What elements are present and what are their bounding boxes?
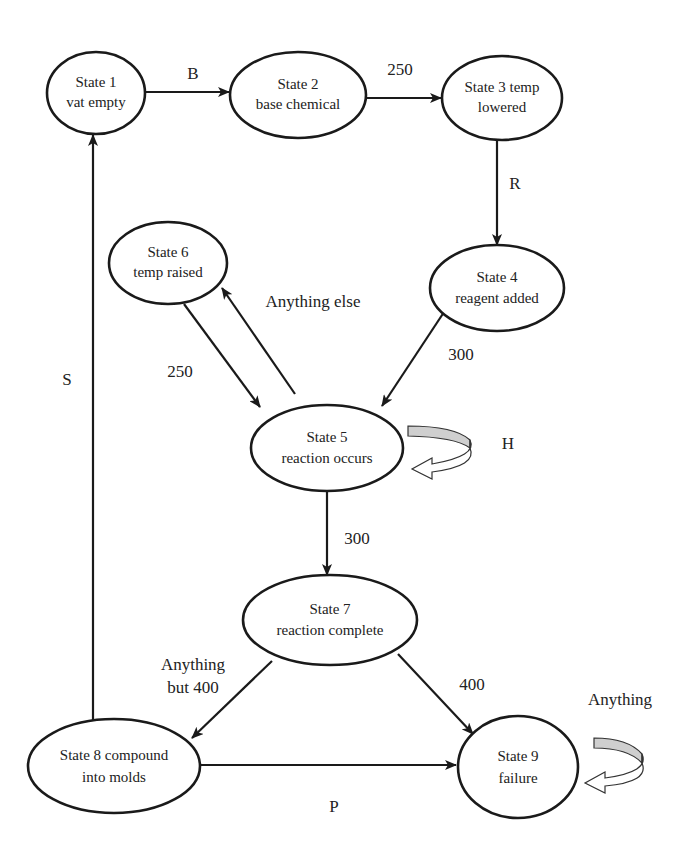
edge-s8-s9: P [199, 765, 456, 816]
edge-label-r: R [509, 174, 521, 193]
node-label: State 4 [476, 269, 518, 285]
edge-s5-s7: 300 [327, 491, 370, 575]
node-label: State 2 [277, 76, 318, 92]
node-label: lowered [478, 99, 527, 115]
node-label: reaction complete [276, 622, 383, 638]
node-label: reaction occurs [281, 450, 372, 466]
edge-label-300-mid: 300 [448, 345, 474, 364]
edge-s2-s3: 250 [367, 60, 441, 98]
node-label: State 8 compound [60, 747, 169, 763]
edge-s7-s9: 400 [398, 654, 485, 734]
state-diagram: B 250 R 300 250 Anything else 300 Anythi… [0, 0, 674, 861]
edge-label-300-bottom: 300 [344, 529, 370, 548]
edge-s3-s4: R [497, 140, 521, 245]
node-label: State 5 [306, 429, 347, 445]
selfloop-s5-icon: H [408, 426, 514, 479]
node-label: State 9 [497, 748, 538, 764]
node-label: State 1 [75, 74, 116, 90]
node-label: State 6 [147, 244, 189, 260]
edge-s8-s1: S [62, 135, 93, 720]
node-label: temp raised [133, 264, 203, 280]
edge-s6-s5: 250 [167, 304, 260, 407]
edge-s5-s6: Anything else [222, 288, 360, 394]
node-state-3: State 3 temp lowered [442, 56, 562, 140]
edge-label-anything-else: Anything else [266, 292, 361, 311]
edge-label-b: B [187, 64, 198, 83]
edge-label-anything-line2: but 400 [167, 678, 218, 697]
edge-label-400: 400 [459, 675, 485, 694]
node-label: State 7 [309, 601, 351, 617]
edge-s7-s8: Anything but 400 [161, 655, 272, 738]
edge-s1-s2: B [144, 64, 229, 92]
edge-label-anything-line1: Anything [161, 655, 226, 674]
edge-label-250-left: 250 [167, 362, 193, 381]
edge-label-s: S [62, 370, 71, 389]
node-state-5: State 5 reaction occurs [251, 405, 403, 491]
node-label: failure [498, 770, 537, 786]
node-state-9: State 9 failure [458, 716, 578, 818]
node-state-4: State 4 reagent added [430, 245, 564, 331]
node-state-7: State 7 reaction complete [243, 575, 417, 665]
node-state-8: State 8 compound into molds [28, 719, 200, 813]
node-state-2: State 2 base chemical [230, 52, 366, 138]
edge-label-p: P [329, 797, 338, 816]
node-label: vat empty [66, 94, 126, 110]
edge-label-h: H [502, 434, 514, 453]
node-label: reagent added [455, 290, 539, 306]
node-label: State 3 temp [465, 79, 540, 95]
node-state-1: State 1 vat empty [47, 52, 145, 134]
node-label: base chemical [256, 96, 341, 112]
selfloop-s9-icon: Anything [585, 690, 653, 793]
edge-label-anything: Anything [588, 690, 653, 709]
node-state-6: State 6 temp raised [109, 222, 227, 304]
node-label: into molds [82, 769, 146, 785]
edge-label-250-top: 250 [387, 60, 413, 79]
